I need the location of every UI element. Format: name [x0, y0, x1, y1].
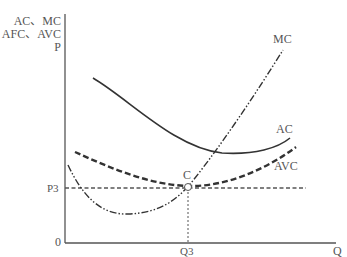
p3-label: P3: [47, 182, 59, 195]
y-axis-label: AC、MC AFC、AVC P: [2, 15, 61, 54]
ac-curve: [93, 78, 290, 153]
point-c-label: C: [183, 169, 191, 182]
mc-curve: [68, 50, 283, 214]
y-axis-label-line-2: AFC、AVC: [2, 28, 61, 41]
mc-label: MC: [273, 33, 292, 46]
avc-label: AVC: [274, 160, 298, 173]
y-axis-label-line-3: P: [2, 41, 61, 54]
ac-label: AC: [276, 123, 293, 136]
point-c-marker: [185, 184, 192, 191]
q3-label: Q3: [180, 245, 193, 257]
x-axis-label: Q: [333, 245, 342, 257]
origin-label: 0: [55, 236, 61, 249]
